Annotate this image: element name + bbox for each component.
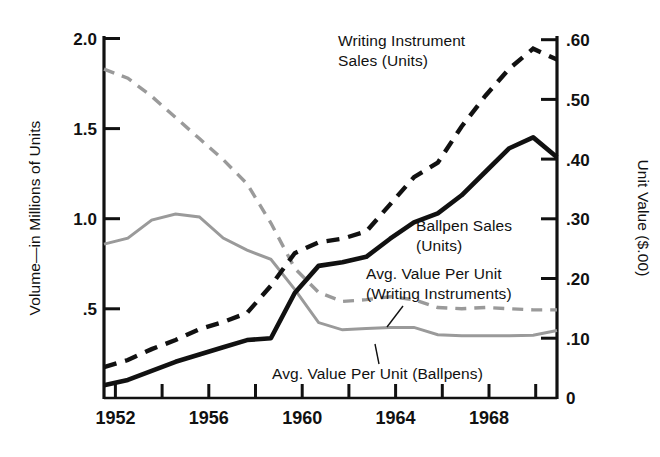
chart-svg: 2.0 1.5 1.0 .5 .60 .50 .40 .30 .20 .10 0 [0,0,660,457]
x-tick-1960: 1960 [282,408,322,428]
annotation-bp-line2: (Units) [416,237,462,254]
right-axis-ticks [541,40,557,339]
leader-line-avg-value-ballpens [375,344,379,364]
y2-tick-60: .60 [566,31,590,50]
series-writing-instrument-sales [104,49,557,368]
annotation-avw-line1: Avg. Value Per Unit [366,265,502,282]
x-tick-1956: 1956 [189,408,229,428]
annotation-avw-line2: (Writing Instruments) [366,285,512,302]
y-tick-2-0: 2.0 [73,30,97,49]
y2-tick-40: .40 [566,151,590,170]
annotation-avg-value-ballpens: Avg. Value Per Unit (Ballpens) [272,344,483,382]
annotation-wi-line2: Sales (Units) [338,52,428,69]
y-tick-1-5: 1.5 [73,120,97,139]
x-tick-1964: 1964 [376,408,416,428]
annotation-avg-value-writing-instruments: Avg. Value Per Unit (Writing Instruments… [366,265,512,327]
annotation-ballpen-sales: Ballpen Sales (Units) [416,217,512,254]
x-tick-1952: 1952 [95,408,135,428]
left-axis-ticks [104,39,120,309]
leader-line-avg-value-writing [387,306,403,327]
left-axis-tick-labels: 2.0 1.5 1.0 .5 [73,30,97,319]
annotation-bp-line1: Ballpen Sales [416,217,512,234]
y2-tick-30: .30 [566,210,590,229]
x-tick-1968: 1968 [469,408,509,428]
annotation-avb-line1: Avg. Value Per Unit (Ballpens) [272,365,483,382]
annotation-wi-line1: Writing Instrument [338,32,466,49]
x-axis-ticks [115,384,535,398]
left-axis-title: Volume—in Millions of Units [26,120,43,315]
right-axis-title: Unit Value ($.00) [635,160,652,277]
y-tick-0-5: .5 [83,300,97,319]
y2-tick-0: 0 [566,389,575,408]
series-ballpen-sales [104,137,557,385]
chart-figure: 2.0 1.5 1.0 .5 .60 .50 .40 .30 .20 .10 0 [0,0,660,457]
y2-tick-50: .50 [566,91,590,110]
y2-tick-10: .10 [566,330,590,349]
y-tick-1-0: 1.0 [73,210,97,229]
right-axis-tick-labels: .60 .50 .40 .30 .20 .10 0 [566,31,590,408]
x-axis-tick-labels: 1952 1956 1960 1964 1968 [95,408,509,428]
y2-tick-20: .20 [566,270,590,289]
annotation-writing-instrument-sales: Writing Instrument Sales (Units) [338,32,466,69]
